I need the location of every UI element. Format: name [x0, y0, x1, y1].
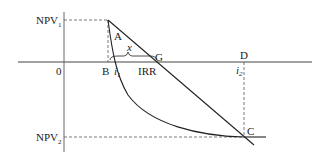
i2-label: i2: [236, 64, 243, 78]
origin-label: 0: [56, 65, 62, 77]
point-d-label: D: [240, 49, 248, 61]
point-b-label: B: [102, 65, 109, 77]
irr-diagram: NPV1 NPV2 0 A x G B i1 IRR D i2 C: [0, 0, 326, 161]
point-c-label: C: [247, 125, 254, 137]
i1-label: i1: [114, 65, 121, 79]
interpolation-line: [108, 20, 254, 145]
point-a-label: A: [114, 30, 122, 42]
x-brace: [110, 52, 157, 60]
npv2-label: NPV2: [36, 131, 62, 146]
point-g-label: G: [155, 51, 163, 63]
x-label: x: [126, 41, 132, 53]
npv1-label: NPV1: [36, 14, 62, 29]
irr-label: IRR: [138, 65, 157, 77]
